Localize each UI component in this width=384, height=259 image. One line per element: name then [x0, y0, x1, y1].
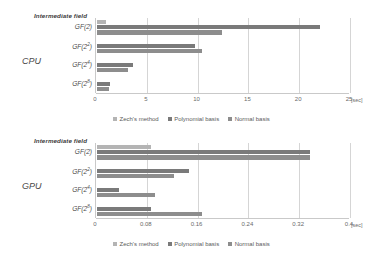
- bar-cpu-1-2: [97, 49, 202, 53]
- category-label: GF(22): [72, 167, 92, 175]
- legend-label: Normal basis: [235, 116, 270, 122]
- x-axis-line: [96, 218, 349, 219]
- gpu-chart-panel: Intermediate field GPU Zech's methodPoly…: [0, 129, 384, 259]
- gpu-legend: Zech's methodPolynomial basisNormal basi…: [113, 241, 270, 247]
- legend-label: Zech's method: [120, 241, 159, 247]
- x-axis-unit-label: [sec]: [351, 97, 362, 103]
- legend-entry: Polynomial basis: [168, 241, 220, 247]
- legend-swatch-icon: [113, 117, 117, 121]
- category-label: GF(24): [72, 60, 92, 68]
- bar-gpu-1-1: [97, 169, 189, 173]
- legend-label: Polynomial basis: [174, 241, 219, 247]
- legend-entry: Zech's method: [113, 116, 159, 122]
- bar-gpu-1-2: [97, 174, 174, 178]
- bar-cpu-0-2: [97, 30, 222, 34]
- cpu-plot-area: [95, 18, 349, 93]
- x-axis-tick-label: 0.08: [140, 221, 152, 227]
- bar-gpu-2-2: [97, 193, 155, 197]
- cpu-device-label: CPU: [22, 56, 41, 66]
- gpu-device-label: GPU: [22, 181, 42, 191]
- category-label: GF(28): [72, 204, 92, 212]
- gridline: [350, 18, 351, 93]
- category-label: GF(2): [75, 23, 92, 30]
- x-axis-tick-label: 10: [193, 96, 200, 102]
- x-axis-tick-label: 20: [295, 96, 302, 102]
- x-axis-line: [96, 93, 349, 94]
- category-label: GF(2): [75, 148, 92, 155]
- bar-gpu-0-0: [97, 145, 151, 149]
- x-axis-tick-label: 0.24: [242, 221, 254, 227]
- bar-gpu-0-2: [97, 155, 310, 159]
- legend-swatch-icon: [168, 242, 172, 246]
- x-axis-unit-label: [sec]: [351, 222, 362, 228]
- bar-cpu-2-1: [97, 63, 133, 67]
- cpu-series-title: Intermediate field: [34, 12, 87, 19]
- legend-entry: Polynomial basis: [168, 116, 220, 122]
- legend-swatch-icon: [228, 242, 232, 246]
- bar-gpu-0-1: [97, 150, 310, 154]
- category-label: GF(24): [72, 185, 92, 193]
- legend-label: Zech's method: [120, 116, 159, 122]
- legend-entry: Zech's method: [113, 241, 159, 247]
- x-axis-tick-label: 0.32: [292, 221, 304, 227]
- legend-label: Polynomial basis: [174, 116, 219, 122]
- legend-entry: Normal basis: [228, 241, 270, 247]
- bar-cpu-3-2: [97, 87, 109, 91]
- x-axis-tick-label: 5: [144, 96, 147, 102]
- bar-cpu-1-1: [97, 44, 195, 48]
- gpu-plot-area: [95, 143, 349, 218]
- legend-swatch-icon: [113, 242, 117, 246]
- bar-cpu-3-1: [97, 82, 110, 86]
- cpu-chart-panel: Intermediate field CPU Zech's methodPoly…: [0, 0, 384, 129]
- x-axis-tick-label: 0.16: [191, 221, 203, 227]
- cpu-legend: Zech's methodPolynomial basisNormal basi…: [113, 116, 270, 122]
- bar-gpu-3-1: [97, 207, 151, 211]
- legend-label: Normal basis: [235, 241, 270, 247]
- gridline: [350, 143, 351, 218]
- legend-swatch-icon: [168, 117, 172, 121]
- bar-gpu-3-2: [97, 212, 202, 216]
- bar-cpu-0-0: [97, 20, 106, 24]
- x-axis-tick-label: 15: [244, 96, 251, 102]
- bar-gpu-2-1: [97, 188, 119, 192]
- gpu-series-title: Intermediate field: [34, 137, 87, 144]
- category-label: GF(22): [72, 42, 92, 50]
- category-label: GF(28): [72, 79, 92, 87]
- x-axis-tick-label: 0: [93, 221, 96, 227]
- x-axis-tick-label: 0: [93, 96, 96, 102]
- bar-cpu-0-1: [97, 25, 320, 29]
- bar-cpu-2-2: [97, 68, 128, 72]
- legend-entry: Normal basis: [228, 116, 270, 122]
- legend-swatch-icon: [228, 117, 232, 121]
